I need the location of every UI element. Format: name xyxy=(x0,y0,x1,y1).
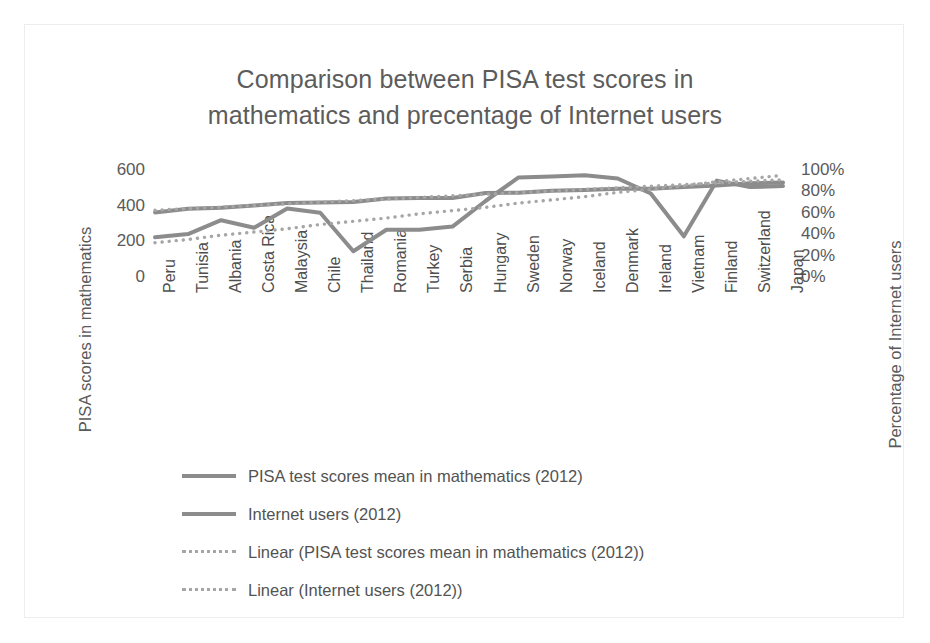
legend-label-3: Linear (Internet users (2012)) xyxy=(248,581,463,600)
chart-legend: PISA test scores mean in mathematics (20… xyxy=(180,457,800,609)
legend-label-2: Linear (PISA test scores mean in mathema… xyxy=(248,543,644,562)
series-line-0 xyxy=(155,182,783,212)
legend-item-0[interactable]: PISA test scores mean in mathematics (20… xyxy=(180,457,800,495)
legend-item-3[interactable]: Linear (Internet users (2012)) xyxy=(180,571,800,609)
legend-swatch-solid-icon xyxy=(180,507,238,521)
legend-label-0: PISA test scores mean in mathematics (20… xyxy=(248,467,583,486)
chart-container: Comparison between PISA test scores in m… xyxy=(24,24,904,618)
legend-swatch-dotted-icon xyxy=(180,583,238,597)
legend-swatch-dotted-icon xyxy=(180,545,238,559)
legend-swatch-solid-icon xyxy=(180,469,238,483)
legend-label-1: Internet users (2012) xyxy=(248,505,401,524)
legend-item-2[interactable]: Linear (PISA test scores mean in mathema… xyxy=(180,533,800,571)
legend-item-1[interactable]: Internet users (2012) xyxy=(180,495,800,533)
